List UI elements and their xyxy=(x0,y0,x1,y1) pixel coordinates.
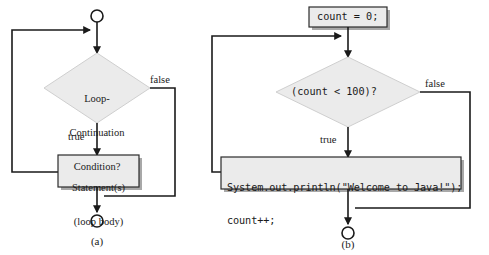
panel-a-process-box xyxy=(58,155,139,187)
panel-b-init-box xyxy=(309,7,387,27)
panel-b-decision-diamond xyxy=(276,57,420,127)
panel-a-decision-diamond xyxy=(44,53,150,123)
panel-a-end-circle xyxy=(91,215,103,227)
flowchart-figure: Loop- Continuation Condition? false true… xyxy=(0,0,489,255)
panel-a-start-circle xyxy=(91,10,103,22)
flowchart-canvas xyxy=(0,0,489,255)
panel-b-end-circle xyxy=(342,227,354,239)
panel-b-process-box xyxy=(221,157,461,189)
